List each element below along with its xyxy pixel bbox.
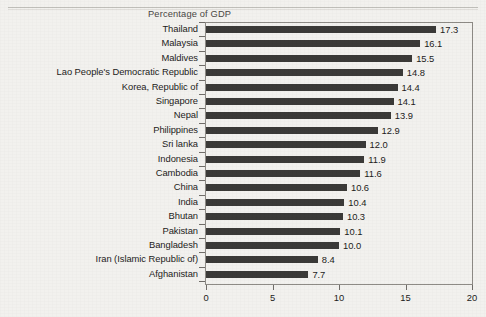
bar-value-label: 11.6: [364, 169, 381, 178]
bar-value-label: 10.1: [344, 227, 362, 236]
category-label: Korea, Republic of: [122, 82, 198, 92]
category-axis: ThailandMalaysiaMaldivesLao People's Dem…: [0, 22, 198, 285]
value-tick: [206, 285, 207, 290]
category-tick: [199, 195, 205, 196]
bar-series: 17.316.115.514.814.414.113.912.912.011.9…: [206, 22, 472, 285]
header-divider-secondary: [8, 9, 478, 10]
category-tick: [199, 166, 205, 167]
category-tick: [199, 238, 205, 239]
bar-value-label: 14.8: [407, 68, 425, 77]
bar: [206, 69, 403, 76]
bar: [206, 84, 398, 91]
value-tick: [472, 285, 473, 290]
bar: [206, 127, 378, 134]
bar: [206, 156, 364, 163]
category-tick: [199, 65, 205, 66]
category-label: Bangladesh: [149, 240, 198, 250]
category-tick: [199, 180, 205, 181]
bar-value-label: 12.9: [382, 126, 400, 135]
bar: [206, 40, 420, 47]
category-tick: [199, 94, 205, 95]
value-tick-label: 5: [270, 292, 275, 303]
bar-value-label: 10.0: [343, 241, 361, 250]
category-label: India: [178, 197, 198, 207]
category-label: Bhutan: [169, 211, 198, 221]
category-label: Cambodia: [156, 168, 198, 178]
value-tick-label: 15: [400, 292, 410, 303]
bar-value-label: 10.4: [348, 198, 366, 207]
bar-value-label: 12.0: [370, 140, 388, 149]
bar: [206, 256, 318, 263]
category-label: Nepal: [174, 110, 198, 120]
value-tick: [339, 285, 340, 290]
category-tick: [199, 209, 205, 210]
category-tick: [199, 281, 205, 282]
category-tick: [199, 80, 205, 81]
category-label: Malaysia: [161, 38, 198, 48]
value-tick-label: 10: [334, 292, 344, 303]
bar-value-label: 7.7: [312, 270, 325, 279]
bar: [206, 55, 412, 62]
category-tick: [199, 22, 205, 23]
category-label: Philippines: [153, 125, 198, 135]
bar-value-label: 13.9: [395, 111, 413, 120]
bar: [206, 112, 391, 119]
category-label: Lao People's Democratic Republic: [57, 67, 198, 77]
value-tick-label: 0: [203, 292, 208, 303]
bar: [206, 141, 366, 148]
category-label: Singapore: [156, 96, 198, 106]
bar: [206, 228, 340, 235]
category-tick: [199, 51, 205, 52]
bar-value-label: 8.4: [322, 255, 335, 264]
category-tick: [199, 224, 205, 225]
category-tick: [199, 267, 205, 268]
bar: [206, 98, 394, 105]
bar: [206, 26, 436, 33]
bar-value-label: 10.3: [347, 212, 365, 221]
chart-page: Percentage of GDP ThailandMalaysiaMaldiv…: [0, 0, 486, 317]
value-tick: [273, 285, 274, 290]
value-tick: [406, 285, 407, 290]
bar: [206, 242, 339, 249]
bar-value-label: 17.3: [440, 25, 458, 34]
bar-value-label: 14.1: [398, 97, 416, 106]
bar: [206, 271, 308, 278]
bar-value-label: 15.5: [416, 54, 434, 63]
bar: [206, 199, 344, 206]
category-tick: [199, 137, 205, 138]
category-label: Sri lanka: [162, 139, 198, 149]
category-tick: [199, 252, 205, 253]
category-tick: [199, 108, 205, 109]
value-tick-label: 20: [467, 292, 477, 303]
category-label: Maldives: [161, 53, 198, 63]
bar-value-label: 11.9: [368, 155, 385, 164]
chart-title: Percentage of GDP: [148, 9, 231, 19]
category-label: China: [174, 182, 198, 192]
category-label: Indonesia: [158, 154, 198, 164]
header-divider: [8, 7, 478, 8]
category-label: Afghanistan: [149, 269, 198, 279]
bar: [206, 213, 343, 220]
bar-value-label: 14.4: [402, 83, 420, 92]
category-tick: [199, 123, 205, 124]
category-label: Iran (Islamic Republic of): [96, 254, 198, 264]
bar-value-label: 10.6: [351, 183, 369, 192]
category-tick: [199, 152, 205, 153]
category-label: Pakistan: [162, 226, 198, 236]
category-label: Thailand: [162, 24, 198, 34]
bar-value-label: 16.1: [424, 39, 442, 48]
bar: [206, 184, 347, 191]
category-tick: [199, 36, 205, 37]
bar: [206, 170, 360, 177]
